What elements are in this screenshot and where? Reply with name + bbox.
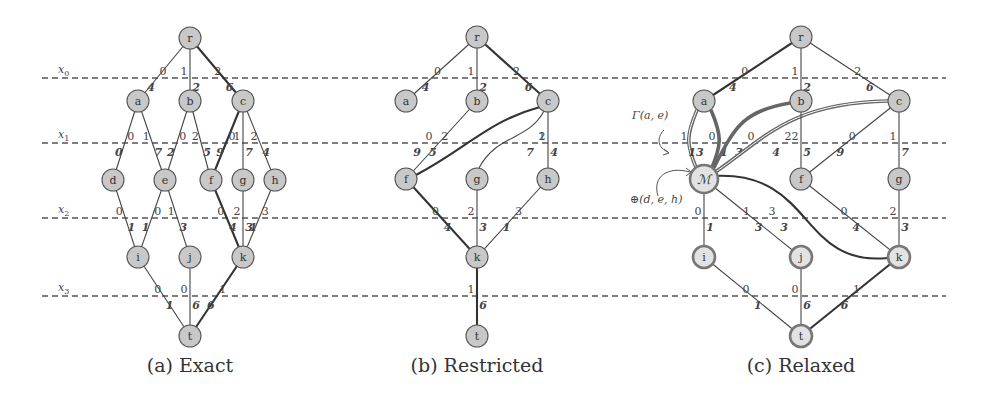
node-label: b [797, 95, 804, 108]
edge-value-label: 0 [841, 205, 848, 218]
node-f: f [790, 168, 812, 190]
node-c: c [232, 90, 254, 112]
edge-weight-label: 3 [901, 221, 909, 234]
node-label: i [702, 251, 706, 264]
layer-label: x0 [58, 63, 69, 78]
edge-b-e [165, 101, 190, 180]
edge-weight-label: 1 [503, 221, 511, 234]
node-b: b [790, 90, 812, 112]
oplus-annotation: ⊕(d, e, h) [630, 193, 682, 206]
edge-weight-label: 4 [852, 221, 860, 234]
gamma-annotation: Γ(a, e) [631, 109, 668, 122]
edge-weight-label: 1 [754, 299, 762, 312]
node-label: b [473, 95, 480, 108]
edge-weight-label: 4 [444, 221, 452, 234]
edge-weight-label: 6 [525, 81, 533, 94]
node-g: g [888, 168, 910, 190]
node-label: g [895, 173, 902, 186]
node-h: h [264, 169, 286, 191]
edge-c-f [416, 107, 540, 175]
node-b: b [179, 90, 201, 112]
node-e: e [154, 169, 176, 191]
edge-r-c [801, 37, 899, 101]
edge-weight-label: 6 [226, 81, 234, 94]
edge-weight-label: 13 [688, 146, 704, 159]
edge-weight-label: 6 [192, 299, 200, 312]
edge-value-label: 1 [181, 65, 188, 78]
edge-value-label: 0 [181, 283, 188, 296]
node-label: b [186, 95, 193, 108]
edge-value-label: 0 [709, 130, 716, 143]
node-label: r [474, 31, 480, 44]
node-f: f [200, 169, 222, 191]
gamma-arrow-icon [659, 130, 668, 152]
edge-weight-label: 7 [526, 146, 534, 159]
edge-weight-label: 4 [550, 146, 558, 159]
node-label: a [701, 95, 708, 108]
node-label: i [136, 251, 140, 264]
edge-weight-label: 4 [772, 146, 780, 159]
edge-c-h [243, 101, 275, 180]
edge-weight-label: 6 [803, 299, 811, 312]
node-b: b [466, 90, 488, 112]
edge-weight-label: 1 [142, 221, 150, 234]
edge-value-label: 0 [742, 283, 749, 296]
edge-weight-label: 1 [128, 221, 136, 234]
node-label: t [188, 330, 193, 343]
edge-value-label: 0 [116, 205, 123, 218]
node-M: ℳ [690, 165, 718, 193]
edge-value-label: 0 [426, 130, 433, 143]
edge-value-label: 2 [234, 205, 241, 218]
edge-weight-label: 7 [245, 146, 253, 159]
edge-weight-label: 5 [803, 146, 811, 159]
edge-weight-label: 6 [841, 299, 849, 312]
edge-value-label: 1 [853, 283, 860, 296]
edge-weight-label: 9 [836, 146, 844, 159]
edge-value-label: 2 [214, 65, 221, 78]
edge-c-g [479, 111, 544, 168]
edge-weight-label: 6 [866, 81, 874, 94]
edge-value-label: 0 [695, 205, 702, 218]
node-c: c [888, 90, 910, 112]
node-a: a [693, 90, 715, 112]
panel-caption: (a) Exact [147, 354, 234, 376]
edge-weight-label: 1 [706, 221, 714, 234]
panel-caption: (b) Restricted [411, 354, 544, 376]
node-label: k [474, 251, 481, 264]
edge-value-label: 2 [792, 130, 799, 143]
edge-value-label: 2 [539, 130, 546, 143]
edge-value-label: 2 [785, 130, 792, 143]
node-label: r [798, 31, 804, 44]
edge-value-label: 2 [441, 130, 448, 143]
edge-value-label: 1 [168, 205, 175, 218]
edge-value-label: 0 [154, 283, 161, 296]
node-t: t [790, 325, 812, 347]
node-label: c [545, 95, 551, 108]
edge-weight-label: 5 [429, 146, 437, 159]
node-j: j [179, 246, 201, 268]
layer-label: x1 [58, 128, 69, 143]
edge-value-label: 1 [468, 283, 475, 296]
node-h: h [537, 168, 559, 190]
node-r: r [790, 26, 812, 48]
edge-value-label: 0 [792, 283, 799, 296]
edge-weight-label: 2 [166, 146, 175, 159]
node-c: c [537, 90, 559, 112]
edge-value-label: 1 [468, 65, 475, 78]
edge-value-label: 2 [251, 130, 258, 143]
edge-value-label: 1 [743, 205, 750, 218]
edge-weight-label: 6 [207, 299, 215, 312]
edge-value-label: 2 [468, 205, 475, 218]
edge-weight-label: 1 [166, 299, 174, 312]
edge-value-label: 0 [159, 65, 166, 78]
edge-a-d [113, 101, 138, 180]
edge-weight-label: 4 [422, 81, 430, 94]
node-g: g [232, 169, 254, 191]
node-d: d [102, 169, 124, 191]
edge-value-label: 1 [681, 130, 688, 143]
node-i: i [127, 246, 149, 268]
node-label: c [240, 95, 246, 108]
node-label: a [403, 95, 410, 108]
annotations: Γ(a, e)⊕(d, e, h) [630, 109, 691, 206]
node-t: t [466, 325, 488, 347]
